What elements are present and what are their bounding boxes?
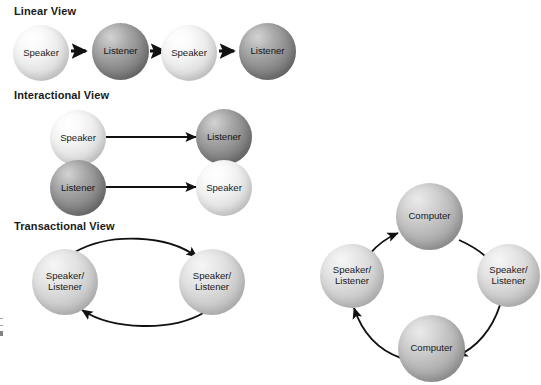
node-label: Computer	[410, 343, 452, 354]
interactional-arrows	[106, 137, 196, 187]
node-linear-3: Speaker	[161, 25, 217, 81]
node-label: Speaker/ Listener	[333, 265, 371, 286]
node-interactional-r1-left: Speaker	[50, 110, 106, 166]
node-label: Speaker	[23, 48, 59, 59]
node-interactional-r2-right: Speaker	[196, 160, 252, 216]
section-heading-interactional: Interactional View	[14, 89, 109, 101]
node-label: Speaker	[206, 183, 242, 194]
node-label: Speaker/ Listener	[489, 265, 527, 286]
node-linear-1: Speaker	[13, 25, 69, 81]
node-cycle-bottom-computer: Computer	[398, 315, 465, 382]
node-transactional-left: Speaker/ Listener	[32, 249, 98, 315]
node-transactional-right: Speaker/ Listener	[179, 249, 245, 315]
node-label: Computer	[408, 211, 450, 222]
edge-mark-1	[0, 318, 3, 319]
node-label: Speaker	[60, 133, 96, 144]
section-heading-transactional: Transactional View	[14, 220, 115, 232]
node-label: Listener	[207, 132, 241, 143]
node-cycle-right-speaker-listener: Speaker/ Listener	[477, 244, 540, 307]
edge-mark-3	[0, 331, 3, 336]
node-label: Speaker/ Listener	[193, 271, 231, 292]
node-label: Speaker	[171, 48, 207, 59]
node-label: Listener	[250, 46, 284, 57]
node-linear-4: Listener	[239, 23, 296, 80]
node-label: Listener	[103, 46, 137, 57]
node-label: Speaker/ Listener	[46, 271, 84, 292]
node-cycle-left-speaker-listener: Speaker/ Listener	[320, 244, 384, 308]
node-label: Listener	[61, 183, 95, 194]
node-interactional-r2-left: Listener	[50, 160, 106, 216]
edge-mark-2	[0, 325, 3, 326]
node-interactional-r1-right: Listener	[196, 109, 252, 165]
diagram-canvas: Linear View Speaker Listener Speaker Lis…	[0, 0, 541, 385]
node-linear-2: Listener	[92, 23, 149, 80]
node-cycle-top-computer: Computer	[396, 183, 463, 250]
section-heading-linear: Linear View	[14, 5, 76, 17]
